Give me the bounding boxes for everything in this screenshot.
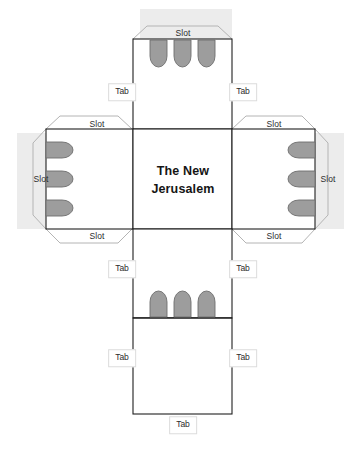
slot-flap-left-top: [46, 116, 132, 129]
bottom-extra-face: [133, 318, 232, 414]
shade-top: [140, 9, 232, 39]
net-face-outlines: [46, 39, 315, 414]
tongue-top-1: [150, 40, 167, 67]
tongues-bottom: [150, 291, 215, 317]
tongue-top-3: [198, 40, 215, 67]
tongue-bottom-3: [198, 291, 215, 317]
tongue-right-1: [288, 142, 315, 158]
tongue-left-1: [46, 142, 73, 158]
slot-flap-right-top: [232, 116, 315, 129]
tongue-bottom-1: [150, 291, 167, 317]
tongue-left-2: [46, 171, 73, 187]
tongue-right-3: [288, 200, 315, 216]
cube-net-drawing: [0, 0, 361, 455]
tongue-bottom-2: [174, 291, 191, 317]
center-face: [133, 129, 232, 229]
shade-right: [314, 133, 344, 229]
tongue-left-3: [46, 200, 73, 216]
tongue-right-2: [288, 171, 315, 187]
papercraft-net-canvas: The New Jerusalem Slot Slot Slot Slot Sl…: [0, 0, 361, 455]
shade-left: [17, 133, 47, 229]
slot-flap-right-bottom: [232, 229, 315, 243]
tongues-left: [46, 142, 73, 216]
slot-flap-left-bottom: [46, 229, 132, 243]
tongues-top: [150, 40, 215, 67]
tongue-top-2: [174, 40, 191, 67]
tongues-right: [288, 142, 315, 216]
